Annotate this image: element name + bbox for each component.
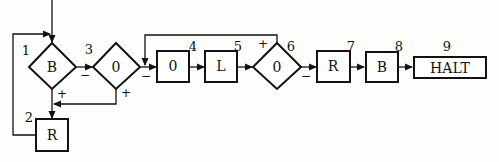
node-2-label: R [47, 127, 58, 143]
node-6-label: 0 [273, 59, 282, 75]
sign-1-minus: − [80, 68, 90, 82]
sign-3-minus: − [141, 69, 151, 83]
node-3-number: 3 [85, 42, 93, 57]
node-2-number: 2 [25, 110, 33, 125]
node-7-number: 7 [347, 39, 355, 54]
node-1-label: B [47, 59, 57, 75]
node-2-box: R 2 [25, 110, 68, 152]
sign-6-minus: − [301, 69, 311, 83]
node-9-number: 9 [443, 39, 451, 54]
node-1-number: 1 [22, 43, 30, 58]
node-3-diamond: 0 3 [85, 42, 140, 90]
sign-1-plus: + [57, 87, 67, 101]
sign-3-plus: + [121, 86, 131, 100]
node-9-halt-box: HALT 9 [414, 39, 486, 79]
node-4-box: 0 4 [157, 39, 197, 83]
node-7-label: R [328, 58, 339, 74]
sign-6-plus: + [258, 37, 268, 51]
flowchart: B 1 R 2 0 3 0 4 L 5 0 6 R 7 B 8 [0, 0, 499, 162]
node-7-box: R 7 [317, 39, 355, 83]
node-4-label: 0 [169, 58, 178, 74]
node-8-number: 8 [395, 39, 403, 54]
node-8-box: B 8 [366, 39, 403, 83]
node-6-number: 6 [287, 39, 295, 54]
node-1-diamond: B 1 [22, 43, 76, 90]
node-8-label: B [377, 59, 387, 75]
node-5-number: 5 [234, 39, 242, 54]
node-4-number: 4 [189, 39, 197, 54]
node-5-box: L 5 [205, 39, 242, 83]
node-9-label: HALT [430, 60, 470, 76]
node-3-label: 0 [112, 59, 121, 75]
node-5-label: L [216, 58, 225, 74]
